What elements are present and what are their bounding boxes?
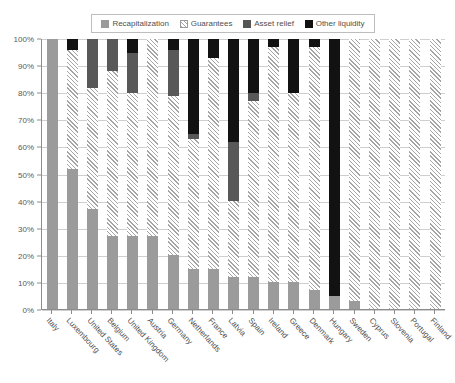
- y-tick-label: 80%: [18, 89, 34, 98]
- legend-swatch-asset-relief-icon: [243, 20, 251, 28]
- bar-segment: [349, 39, 360, 301]
- legend-label-recapitalization: Recapitalization: [112, 20, 168, 28]
- bar-segment: [268, 39, 279, 47]
- stacked-bar: [329, 39, 340, 309]
- x-label-cell: Greece: [283, 314, 303, 383]
- y-tick-label: 10%: [18, 278, 34, 287]
- bar-segment: [147, 236, 158, 309]
- bar-segment: [47, 39, 58, 309]
- x-label-cell: United States: [81, 314, 101, 383]
- stacked-bar-chart: Recapitalization Guarantees Asset relief…: [0, 0, 455, 383]
- bar-segment: [389, 39, 400, 309]
- legend-swatch-guarantees-icon: [180, 20, 188, 28]
- x-label-cell: Hungary: [324, 314, 344, 383]
- x-label-cell: Germany: [162, 314, 182, 383]
- legend-label-other-liquidity: Other liquidity: [316, 20, 365, 28]
- stacked-bar: [168, 39, 179, 309]
- x-label-cell: Denmark: [304, 314, 324, 383]
- bar-column: [344, 39, 364, 309]
- stacked-bar: [268, 39, 279, 309]
- bar-segment: [87, 39, 98, 88]
- bar-segment: [228, 277, 239, 309]
- bar-segment: [288, 39, 299, 93]
- legend-item-recapitalization: Recapitalization: [101, 20, 168, 28]
- bar-column: [264, 39, 284, 309]
- stacked-bar: [87, 39, 98, 309]
- stacked-bar: [47, 39, 58, 309]
- bar-column: [62, 39, 82, 309]
- x-axis-labels: ItalyLuxembourgUnited StatesBelgiumUnite…: [41, 314, 445, 383]
- bar-segment: [248, 101, 259, 277]
- bar-column: [223, 39, 243, 309]
- stacked-bar: [208, 39, 219, 309]
- legend-label-asset-relief: Asset relief: [254, 20, 294, 28]
- legend-swatch-recapitalization-icon: [101, 20, 109, 28]
- bar-segment: [107, 39, 118, 71]
- bar-segment: [288, 282, 299, 309]
- y-tick-label: 40%: [18, 197, 34, 206]
- x-label-cell: Latvia: [223, 314, 243, 383]
- bar-segment: [147, 39, 158, 236]
- stacked-bar: [248, 39, 259, 309]
- x-label-cell: Italy: [41, 314, 61, 383]
- x-label-cell: Ireland: [263, 314, 283, 383]
- stacked-bar: [349, 39, 360, 309]
- bar-segment: [67, 39, 78, 50]
- stacked-bar: [67, 39, 78, 309]
- bar-segment: [168, 255, 179, 309]
- plot-area: [41, 39, 445, 310]
- bar-column: [425, 39, 445, 309]
- bar-column: [304, 39, 324, 309]
- y-tick-label: 20%: [18, 251, 34, 260]
- stacked-bar: [188, 39, 199, 309]
- x-label-cell: Sweden: [344, 314, 364, 383]
- bar-column: [405, 39, 425, 309]
- bar-segment: [208, 58, 219, 269]
- bar-segment: [188, 269, 199, 310]
- bar-segment: [268, 282, 279, 309]
- bar-column: [284, 39, 304, 309]
- bar-series-container: [42, 39, 445, 309]
- x-label-cell: Spain: [243, 314, 263, 383]
- y-tick-label: 60%: [18, 143, 34, 152]
- bar-column: [324, 39, 344, 309]
- y-tick-label: 70%: [18, 116, 34, 125]
- x-label-cell: Finland: [425, 314, 445, 383]
- bar-segment: [168, 96, 179, 255]
- bar-segment: [127, 93, 138, 236]
- bar-segment: [188, 139, 199, 269]
- stacked-bar: [288, 39, 299, 309]
- bar-segment: [188, 39, 199, 134]
- bar-segment: [248, 39, 259, 93]
- bar-segment: [248, 277, 259, 309]
- bar-segment: [228, 39, 239, 142]
- y-tick-label: 100%: [14, 35, 34, 44]
- stacked-bar: [409, 39, 420, 309]
- stacked-bar: [107, 39, 118, 309]
- x-axis: ItalyLuxembourgUnited StatesBelgiumUnite…: [41, 310, 445, 383]
- bar-column: [163, 39, 183, 309]
- legend-item-other-liquidity: Other liquidity: [305, 20, 365, 28]
- bar-column: [203, 39, 223, 309]
- bar-column: [365, 39, 385, 309]
- bar-segment: [288, 93, 299, 282]
- stacked-bar: [430, 39, 441, 309]
- bar-segment: [168, 50, 179, 96]
- bar-segment: [309, 39, 320, 47]
- x-label-cell: Austria: [142, 314, 162, 383]
- bar-segment: [208, 39, 219, 58]
- bar-column: [123, 39, 143, 309]
- bar-segment: [329, 296, 340, 310]
- bar-column: [102, 39, 122, 309]
- legend-label-guarantees: Guarantees: [191, 20, 233, 28]
- bar-segment: [67, 169, 78, 309]
- bar-segment: [107, 236, 118, 309]
- y-tick-label: 30%: [18, 224, 34, 233]
- bar-segment: [309, 47, 320, 290]
- stacked-bar: [369, 39, 380, 309]
- bar-column: [244, 39, 264, 309]
- bar-column: [143, 39, 163, 309]
- stacked-bar: [228, 39, 239, 309]
- x-tick-label: Italy: [45, 316, 62, 333]
- x-label-cell: Slovenia: [384, 314, 404, 383]
